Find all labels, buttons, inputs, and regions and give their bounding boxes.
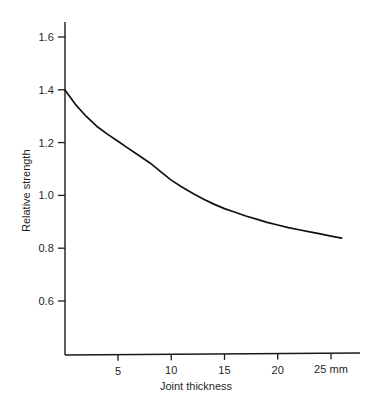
data-series-line (65, 90, 342, 238)
y-tick-label: 1.2 (38, 137, 54, 148)
y-tick-marks (58, 37, 65, 301)
y-tick-label: 1.4 (38, 84, 54, 95)
y-tick-label: 1.0 (38, 190, 54, 201)
x-tick-label: 25 mm (314, 364, 348, 375)
y-tick-label: 0.8 (38, 243, 54, 254)
x-tick-label: 20 (272, 365, 284, 376)
x-axis-title: Joint thickness (160, 380, 232, 392)
relative-strength-chart: 1.61.41.21.00.80.6 510152025 mm Relative… (0, 0, 375, 408)
x-tick-label: 10 (165, 365, 177, 376)
x-tick-label: 5 (115, 366, 121, 377)
x-tick-label: 15 (218, 365, 230, 376)
y-axis-title: Relative strength (20, 149, 32, 232)
x-axis-line (65, 353, 360, 355)
axis-lines (65, 22, 360, 355)
plot-svg (0, 0, 375, 408)
y-tick-label: 1.6 (38, 32, 54, 43)
y-tick-label: 0.6 (38, 296, 54, 307)
